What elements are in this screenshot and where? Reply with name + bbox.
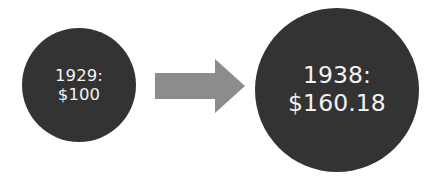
end-value-bubble: 1938: $160.18 bbox=[255, 8, 419, 172]
arrow-right-shape bbox=[155, 59, 245, 113]
end-year-label: 1938: bbox=[303, 62, 371, 90]
arrow-right-icon bbox=[152, 57, 248, 115]
comparison-infographic: 1929: $100 1938: $160.18 bbox=[0, 0, 440, 184]
start-year-label: 1929: bbox=[55, 66, 103, 85]
start-amount-label: $100 bbox=[58, 85, 100, 104]
end-amount-label: $160.18 bbox=[288, 90, 386, 118]
arrow-right-glyph bbox=[152, 57, 248, 115]
start-value-bubble: 1929: $100 bbox=[22, 28, 136, 142]
